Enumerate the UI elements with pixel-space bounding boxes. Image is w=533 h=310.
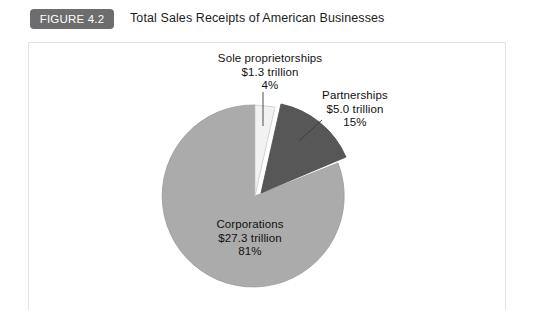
pie-label-partnerships-percent: 15%	[300, 116, 410, 130]
pie-label-partnerships-value: $5.0 trillion	[300, 103, 410, 117]
pie-label-corporations-value: $27.3 trillion	[176, 232, 324, 246]
figure-title: Total Sales Receipts of American Busines…	[130, 11, 384, 25]
pie-label-sole-proprietorships: Sole proprietorships $1.3 trillion 4%	[199, 52, 341, 93]
pie-label-corporations-name: Corporations	[176, 218, 324, 232]
pie-label-partnerships: Partnerships $5.0 trillion 15%	[300, 89, 410, 130]
figure-header: FIGURE 4.2 Total Sales Receipts of Ameri…	[0, 0, 533, 44]
figure-number-badge: FIGURE 4.2	[30, 9, 114, 29]
pie-label-sole-proprietorships-value: $1.3 trillion	[199, 66, 341, 80]
pie-label-sole-proprietorships-name: Sole proprietorships	[199, 52, 341, 66]
pie-label-corporations: Corporations $27.3 trillion 81%	[176, 218, 324, 259]
pie-label-corporations-percent: 81%	[176, 245, 324, 259]
pie-label-partnerships-name: Partnerships	[300, 89, 410, 103]
